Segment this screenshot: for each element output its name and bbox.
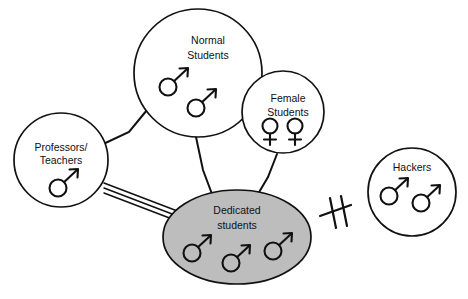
node-professors-teachers[interactable]: Professors/ Teachers bbox=[14, 113, 108, 207]
edge-normal-dedicated bbox=[196, 137, 212, 194]
node-hackers[interactable]: Hackers bbox=[368, 148, 456, 236]
node-dedicated-students-label-line-2: students bbox=[217, 219, 257, 231]
diagram-canvas: Professors/ Teachers Normal Students bbox=[0, 0, 468, 299]
node-female-students[interactable]: Female Students bbox=[242, 71, 324, 153]
edge-professors-dedicated bbox=[104, 183, 180, 222]
node-hackers-label-line-1: Hackers bbox=[393, 161, 432, 173]
node-professors-label-line-1: Professors/ bbox=[34, 141, 87, 153]
crossed-out-link-marker bbox=[320, 196, 351, 228]
diagram-root: Professors/ Teachers Normal Students bbox=[0, 0, 468, 299]
node-professors-label-line-2: Teachers bbox=[40, 154, 83, 166]
edge-professors-normal bbox=[99, 110, 147, 146]
node-normal-students-label-line-2: Students bbox=[187, 49, 228, 61]
node-dedicated-students[interactable]: Dedicated students bbox=[163, 190, 311, 284]
node-female-students-label-line-1: Female bbox=[270, 92, 305, 104]
edge-female-dedicated bbox=[258, 154, 277, 194]
node-female-students-label-line-2: Students bbox=[267, 106, 308, 118]
node-normal-students-label-line-1: Normal bbox=[191, 34, 225, 46]
node-dedicated-students-label-line-1: Dedicated bbox=[213, 204, 260, 216]
